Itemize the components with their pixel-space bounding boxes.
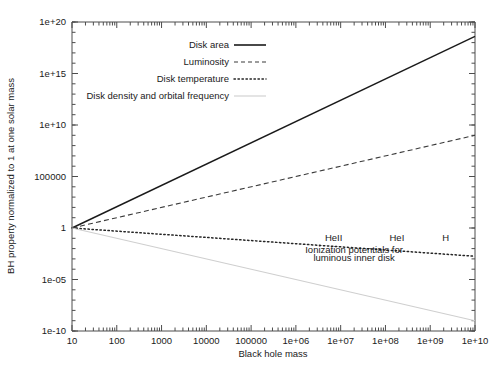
legend-label: Luminosity (184, 56, 230, 67)
chart-annotation: H (442, 232, 449, 243)
chart-container: 1e+201e+151e+1010000011e-051e-10 1010010… (0, 0, 494, 366)
x-tick-label: 1e+10 (462, 335, 489, 346)
y-tick-label: 1e+15 (39, 68, 66, 79)
x-tick-label: 100000 (235, 335, 267, 346)
x-tick-label: 1000 (151, 335, 172, 346)
x-axis-label: Black hole mass (238, 348, 307, 359)
y-axis-label: BH property normalized to 1 at one solar… (5, 78, 16, 274)
plot-frame (72, 22, 475, 331)
y-tick-label: 1e+20 (39, 16, 66, 27)
y-tick-label: 1e+10 (39, 119, 66, 130)
x-tick-label: 10000 (193, 335, 219, 346)
annotation-layer: HeIIHeIHIonization potentials forluminou… (305, 232, 449, 263)
series-line-luminosity (72, 135, 475, 228)
log-log-line-chart: 1e+201e+151e+1010000011e-051e-10 1010010… (0, 0, 494, 366)
chart-legend: Disk areaLuminosityDisk temperatureDisk … (86, 39, 266, 101)
y-tick-label: 1e-05 (42, 274, 66, 285)
legend-label: Disk temperature (157, 73, 229, 84)
y-tick-label: 100000 (34, 171, 66, 182)
series-line-disk-area (72, 36, 475, 228)
legend-label: Disk density and orbital frequency (86, 90, 229, 101)
x-tick-label: 1e+07 (327, 335, 354, 346)
x-axis-ticks: 101001000100001000001e+061e+071e+081e+09… (67, 22, 489, 346)
legend-label: Disk area (189, 39, 230, 50)
chart-annotation: HeII (325, 232, 342, 243)
x-tick-label: 10 (67, 335, 78, 346)
x-tick-label: 1e+08 (372, 335, 399, 346)
x-tick-label: 100 (109, 335, 125, 346)
series-layer (72, 36, 475, 320)
x-tick-label: 1e+06 (283, 335, 310, 346)
chart-annotation: HeI (390, 232, 405, 243)
y-tick-label: 1e-10 (42, 325, 66, 336)
chart-annotation: luminous inner disk (313, 252, 395, 263)
x-tick-label: 1e+09 (417, 335, 444, 346)
y-tick-label: 1 (61, 222, 66, 233)
y-axis-ticks: 1e+201e+151e+1010000011e-051e-10 (34, 16, 475, 336)
